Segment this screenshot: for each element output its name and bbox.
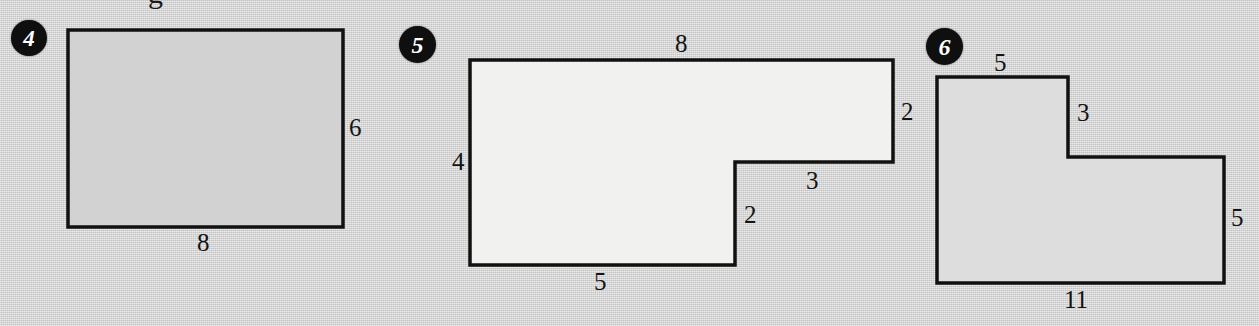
problem-badge-4[interactable]: 4: [11, 20, 47, 56]
problem-badge-4-label: 4: [23, 27, 35, 50]
figure-5-label-bottom: 5: [594, 269, 607, 294]
figure-4-rectangle: [68, 30, 343, 227]
figure-6-label-top: 5: [994, 50, 1007, 75]
figure-4-label-height: 6: [349, 115, 362, 140]
figure-5-polygon: [470, 60, 893, 265]
figure-5-label-right: 2: [901, 99, 914, 124]
figure-5-label-step-vertical: 2: [744, 202, 757, 227]
figure-5-label-top: 8: [675, 31, 688, 56]
figure-5-label-step-horizontal: 3: [806, 168, 819, 193]
figure-4-label-width: 8: [197, 230, 210, 255]
figure-5-label-left: 4: [452, 149, 465, 174]
figures-canvas: [0, 0, 1259, 326]
problem-badge-6-label: 6: [939, 35, 951, 59]
figure-6-label-right: 5: [1231, 205, 1244, 230]
figure-6-label-bottom: 11: [1064, 287, 1088, 312]
problem-badge-5-label: 5: [412, 33, 424, 57]
worksheet-page: g 4 6 8 5 8 2 3 2 4 5 6 5 3 5 11: [0, 0, 1259, 326]
problem-badge-5[interactable]: 5: [399, 26, 436, 63]
figure-6-label-step-vertical: 3: [1077, 100, 1090, 125]
problem-badge-6[interactable]: 6: [926, 28, 963, 65]
